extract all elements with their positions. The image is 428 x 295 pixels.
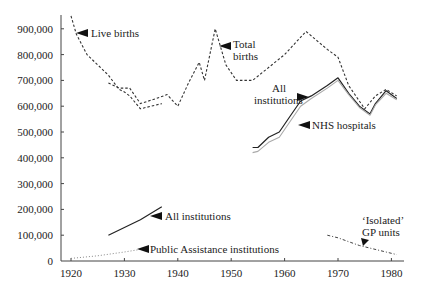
label-gp-line1: ‘Isolated’ <box>362 214 404 226</box>
x-tick-label: 1960 <box>274 267 297 279</box>
y-tick-label: 400,000 <box>17 152 53 164</box>
series-all-institutions-1927-1937- <box>108 207 161 235</box>
annotation-total-births: Total births <box>219 38 258 62</box>
y-ticks: 0100,000200,000300,000400,000500,000600,… <box>17 23 64 267</box>
label-live-births: Live births <box>91 27 139 39</box>
series-public-assistance-institutions <box>71 249 140 258</box>
x-tick-label: 1940 <box>167 267 190 279</box>
label-nhs: NHS hospitals <box>312 119 376 131</box>
label-total-line1: Total <box>233 38 255 50</box>
arrow-icon <box>76 29 88 37</box>
arrow-icon <box>361 238 369 246</box>
label-gp-line2: GP units <box>362 226 400 238</box>
annotation-public-assistance: Public Assistance institutions <box>137 243 279 255</box>
annotation-gp-units: ‘Isolated’ GP units <box>361 214 404 246</box>
label-public-assist: Public Assistance institutions <box>150 243 279 255</box>
y-tick-label: 0 <box>48 255 54 267</box>
label-all-line2: institutions <box>254 94 303 106</box>
annotation-all-institutions-upper: All institutions <box>254 82 309 106</box>
y-tick-label: 900,000 <box>17 23 53 35</box>
label-all-low: All institutions <box>165 210 231 222</box>
annotation-all-institutions-lower: All institutions <box>150 210 231 222</box>
y-tick-label: 600,000 <box>17 100 53 112</box>
x-tick-label: 1970 <box>327 267 350 279</box>
births-chart: 0100,000200,000300,000400,000500,000600,… <box>0 0 428 295</box>
x-tick-label: 1920 <box>60 267 83 279</box>
annotation-nhs-hospitals: NHS hospitals <box>298 119 376 131</box>
x-tick-label: 1980 <box>380 267 403 279</box>
x-tick-label: 1930 <box>113 267 136 279</box>
annotation-live-births: Live births <box>76 27 139 39</box>
y-tick-label: 300,000 <box>17 178 53 190</box>
y-tick-label: 100,000 <box>17 229 53 241</box>
x-tick-label: 1950 <box>220 267 243 279</box>
y-tick-label: 200,000 <box>17 203 53 215</box>
arrow-icon <box>298 121 310 129</box>
y-tick-label: 800,000 <box>17 49 53 61</box>
y-tick-label: 500,000 <box>17 126 53 138</box>
y-tick-label: 700,000 <box>17 74 53 86</box>
label-total-line2: births <box>233 50 258 62</box>
arrow-icon <box>137 245 149 253</box>
series--isolated-gp-units <box>327 235 396 254</box>
label-all-line1: All <box>272 82 286 94</box>
